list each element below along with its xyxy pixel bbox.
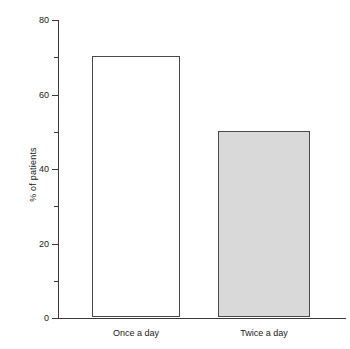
y-tick-mark — [54, 206, 58, 207]
y-tick-mark — [54, 281, 58, 282]
y-axis-spine — [58, 20, 59, 319]
y-tick-mark — [54, 57, 58, 58]
y-tick-mark — [54, 132, 58, 133]
y-axis-label: % of patients — [22, 0, 44, 349]
y-tick-label: 80 — [39, 15, 49, 25]
y-tick-label: 20 — [39, 239, 49, 249]
y-tick-label: 40 — [39, 164, 49, 174]
y-tick-mark — [52, 20, 58, 21]
bar-once-a-day — [92, 56, 180, 317]
plot-area: 0 20 40 60 80 — [58, 20, 346, 318]
bar-chart-figure: % of patients 0 20 40 60 80 — [0, 0, 350, 349]
y-tick-mark — [52, 244, 58, 245]
y-tick-mark — [52, 169, 58, 170]
y-tick-label: 60 — [39, 90, 49, 100]
x-axis-spine — [58, 318, 346, 319]
x-category-label-twice-a-day: Twice a day — [240, 328, 288, 338]
x-category-label-once-a-day: Once a day — [113, 328, 159, 338]
y-tick-label: 0 — [44, 313, 49, 323]
bar-twice-a-day — [218, 131, 310, 317]
y-tick-mark — [52, 318, 58, 319]
y-tick-mark — [52, 95, 58, 96]
